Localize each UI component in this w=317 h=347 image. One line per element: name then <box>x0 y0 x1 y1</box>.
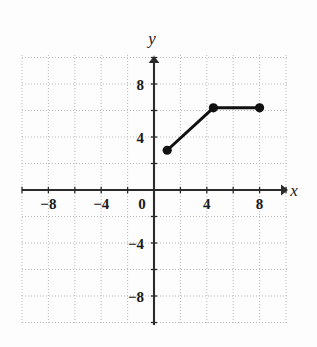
data-series-layer <box>163 103 265 155</box>
data-point-vertex <box>209 103 218 112</box>
y-tick-label-0: 8 <box>137 77 145 93</box>
x-tick-label-0: −8 <box>40 196 56 212</box>
y-tick-label-4: −8 <box>128 289 144 305</box>
data-line-0 <box>167 108 259 150</box>
coordinate-plane-chart: −8−4048 84−4−8 x y <box>0 0 317 347</box>
x-tick-label-4: 8 <box>256 196 264 212</box>
x-axis-arrowhead <box>281 185 288 196</box>
y-tick-label-3: −4 <box>128 236 145 252</box>
axes <box>22 56 288 325</box>
x-axis-tick-labels: −8−4048 <box>40 196 263 212</box>
y-tick-label-1: 4 <box>137 130 145 146</box>
x-axis-label: x <box>289 181 298 200</box>
x-tick-label-3: 4 <box>203 196 211 212</box>
data-point-left-endpoint <box>163 146 172 155</box>
x-tick-label-1: −4 <box>93 196 110 212</box>
graph-figure: −8−4048 84−4−8 x y <box>0 0 317 347</box>
x-tick-label-2: 0 <box>138 196 146 212</box>
data-point-right-endpoint <box>255 103 264 112</box>
y-axis-label: y <box>146 29 156 48</box>
